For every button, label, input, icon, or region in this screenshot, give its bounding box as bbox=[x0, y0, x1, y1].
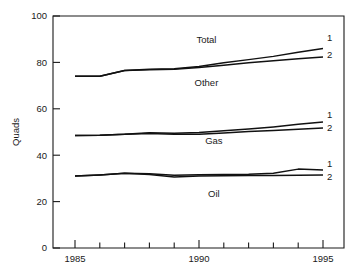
chart-figure: 0 20 40 60 80 100 Quads 1985 bbox=[0, 0, 359, 276]
y-tick-label-100: 100 bbox=[31, 10, 47, 21]
band-label-oil: Oil bbox=[208, 188, 220, 199]
y-axis-title: Quads bbox=[10, 118, 21, 146]
band-label-total: Total bbox=[196, 34, 216, 45]
series-tag-gas-1: 1 bbox=[327, 109, 332, 120]
y-axis-tick-labels: 0 20 40 60 80 100 bbox=[31, 10, 47, 253]
y-tick-label-40: 40 bbox=[36, 150, 47, 161]
y-tick-label-0: 0 bbox=[42, 242, 47, 253]
band-label-gas: Gas bbox=[205, 135, 223, 146]
y-axis-ticks bbox=[53, 16, 60, 248]
series-tag-total-2: 2 bbox=[327, 49, 332, 60]
series-end-tags: 1 2 1 2 1 2 bbox=[327, 32, 332, 182]
y-tick-label-60: 60 bbox=[36, 103, 47, 114]
x-tick-label-1995: 1995 bbox=[312, 253, 333, 264]
series-tag-gas-2: 2 bbox=[327, 122, 332, 133]
band-label-other: Other bbox=[195, 77, 219, 88]
x-tick-label-1985: 1985 bbox=[64, 253, 85, 264]
x-axis-ticks bbox=[75, 240, 323, 248]
y-tick-label-80: 80 bbox=[36, 57, 47, 68]
series-line-gas-1 bbox=[75, 122, 323, 135]
x-tick-label-1990: 1990 bbox=[188, 253, 209, 264]
y-axis-title-group: Quads bbox=[10, 118, 21, 146]
series-layer bbox=[75, 48, 323, 177]
series-tag-oil-2: 2 bbox=[327, 171, 332, 182]
series-line-total-1 bbox=[75, 48, 323, 76]
chart-svg: 0 20 40 60 80 100 Quads 1985 bbox=[0, 0, 359, 276]
series-tag-total-1: 1 bbox=[327, 32, 332, 43]
series-tag-oil-1: 1 bbox=[327, 158, 332, 169]
x-axis-tick-labels: 1985 1990 1995 bbox=[64, 253, 333, 264]
y-tick-label-20: 20 bbox=[36, 196, 47, 207]
